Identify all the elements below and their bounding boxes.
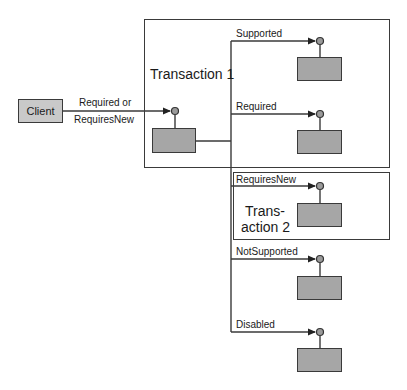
branch-label-supported: Supported [236,28,282,40]
caller-component [152,128,196,153]
branch-label-notsupported: NotSupported [236,246,298,258]
transaction2-label-line2: action 2 [241,219,290,235]
branch-label-required: Required [236,101,277,113]
component-required [297,130,342,154]
client-call-label-line2: RequiresNew [74,114,134,126]
component-notsupported [297,276,342,300]
client-call-label-line1: Required or [79,97,131,109]
client-label: Client [26,105,54,117]
branch-label-requiresnew: RequiresNew [236,174,296,186]
client-node: Client [18,99,63,123]
component-supported [297,57,342,81]
port-icon [317,329,324,336]
branch-label-disabled: Disabled [236,319,275,331]
component-disabled [297,348,342,372]
transaction1-label: Transaction 1 [150,66,234,82]
port-icon [317,256,324,263]
component-requiresnew [297,203,342,227]
transaction2-label-line1: Trans- [245,203,285,219]
